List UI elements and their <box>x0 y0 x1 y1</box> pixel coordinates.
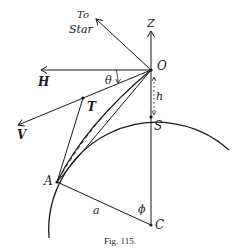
label-s: S <box>154 119 162 133</box>
label-a-radius: a <box>93 204 100 217</box>
point-c <box>149 223 152 226</box>
line-ta <box>57 98 83 182</box>
label-star: Star <box>69 23 94 36</box>
radius-line-a <box>57 182 151 225</box>
label-h-height: h <box>156 90 163 103</box>
label-h-horizon: H <box>37 75 50 89</box>
label-o: O <box>157 59 167 73</box>
earth-surface-arc <box>49 122 229 238</box>
label-v: V <box>17 128 28 142</box>
point-s <box>149 115 152 118</box>
label-t: T <box>87 100 97 114</box>
to-star-line <box>96 19 151 70</box>
h-arrow-bottom <box>152 111 156 115</box>
label-theta: θ <box>105 74 112 87</box>
point-a <box>55 180 58 183</box>
figure-caption: Fig. 115. <box>104 236 136 246</box>
theta-arc <box>116 70 118 83</box>
label-to: To <box>77 9 89 20</box>
point-o <box>149 68 152 71</box>
label-z: Z <box>146 17 155 30</box>
point-t <box>81 96 84 99</box>
label-a-point: A <box>43 174 53 188</box>
label-c: C <box>155 218 164 232</box>
label-phi: ϕ <box>138 203 146 216</box>
line-oa <box>57 70 151 182</box>
diagram-figure: To Star Z O H θ h T V S A a ϕ C Fig. 115… <box>0 0 244 250</box>
